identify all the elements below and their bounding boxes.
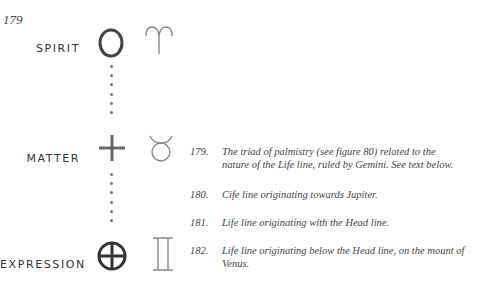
caption-180: 180.Cife line originating towards Jupite… xyxy=(190,188,480,201)
circled-cross-icon xyxy=(96,240,128,272)
taurus-icon xyxy=(148,134,174,164)
gemini-icon xyxy=(152,236,174,272)
figure-number: 179 xyxy=(3,12,23,28)
caption-181: 181.Life line originating with the Head … xyxy=(190,216,480,229)
caption-text: Venus. xyxy=(190,257,480,270)
label-matter: MATTER xyxy=(20,152,80,165)
caption-179: 179.The triad of palmistry (see figure 8… xyxy=(190,145,480,171)
caption-text: Life line originating with the Head line… xyxy=(222,217,389,228)
circle-icon xyxy=(96,27,126,59)
dot xyxy=(110,191,113,194)
caption-number: 179. xyxy=(190,145,222,158)
dot xyxy=(110,219,113,222)
caption-number: 181. xyxy=(190,216,222,229)
caption-number: 182. xyxy=(190,244,222,257)
cross-icon xyxy=(98,134,126,162)
dot xyxy=(110,111,113,114)
dot xyxy=(110,93,113,96)
dot xyxy=(110,83,113,86)
dot xyxy=(110,74,113,77)
dot xyxy=(110,102,113,105)
caption-text: Life line originating below the Head lin… xyxy=(222,245,464,256)
dot xyxy=(110,201,113,204)
dot xyxy=(110,182,113,185)
label-spirit: SPIRIT xyxy=(20,42,80,55)
aries-icon xyxy=(143,24,175,56)
caption-text: Cife line originating towards Jupiter. xyxy=(222,189,378,200)
caption-182: 182.Life line originating below the Head… xyxy=(190,244,480,270)
dot xyxy=(110,210,113,213)
caption-text: nature of the Life line, ruled by Gemini… xyxy=(190,158,480,171)
dot xyxy=(110,173,113,176)
caption-text: The triad of palmistry (see figure 80) r… xyxy=(222,146,436,157)
dot xyxy=(110,65,113,68)
label-expression: EXPRESSION xyxy=(0,258,82,271)
caption-number: 180. xyxy=(190,188,222,201)
